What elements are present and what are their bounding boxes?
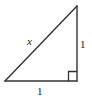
horizontal-leg-label: 1	[37, 86, 43, 97]
triangle-graphic	[0, 0, 92, 102]
hypotenuse-line	[5, 6, 77, 81]
right-angle-square-icon	[69, 72, 78, 82]
hypotenuse-label: x	[27, 36, 32, 47]
right-triangle-figure: x 1 1	[0, 0, 92, 102]
vertical-leg-label: 1	[80, 39, 86, 50]
